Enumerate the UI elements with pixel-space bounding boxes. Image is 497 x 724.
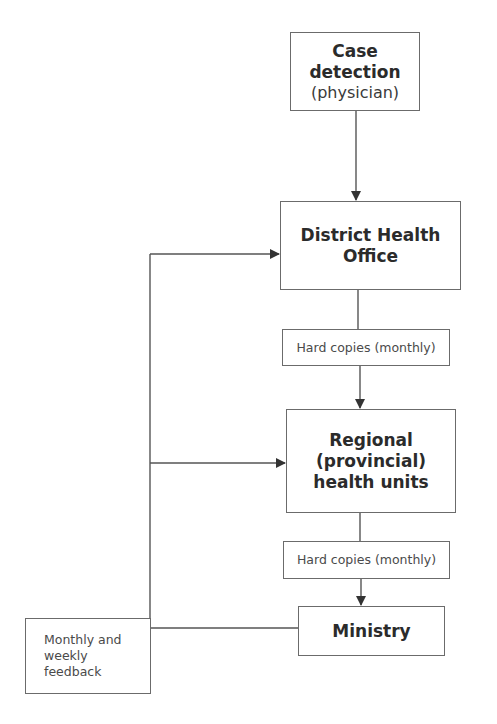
feedback-line2: weekly <box>44 648 88 664</box>
node-hard-copies-1: Hard copies (monthly) <box>282 329 450 366</box>
hard-copies-1-label: Hard copies (monthly) <box>296 340 435 356</box>
case-detection-subtitle: (physician) <box>311 83 399 103</box>
ministry-title: Ministry <box>332 621 410 642</box>
feedback-line3: feedback <box>44 664 101 680</box>
district-title-line1: District Health <box>301 225 441 246</box>
case-detection-title: Case detection <box>291 41 419 83</box>
node-regional-health-units: Regional (provincial) health units <box>286 409 456 513</box>
node-feedback: Monthly and weekly feedback <box>25 618 151 694</box>
regional-title-line2: (provincial) <box>316 451 426 472</box>
feedback-line1: Monthly and <box>44 632 122 648</box>
node-ministry: Ministry <box>298 606 445 656</box>
regional-title-line3: health units <box>313 472 428 493</box>
node-case-detection: Case detection (physician) <box>290 32 420 111</box>
regional-title-line1: Regional <box>329 430 413 451</box>
district-title-line2: Office <box>343 246 398 267</box>
node-hard-copies-2: Hard copies (monthly) <box>283 541 450 579</box>
node-district-health-office: District Health Office <box>280 201 461 290</box>
hard-copies-2-label: Hard copies (monthly) <box>297 552 436 568</box>
